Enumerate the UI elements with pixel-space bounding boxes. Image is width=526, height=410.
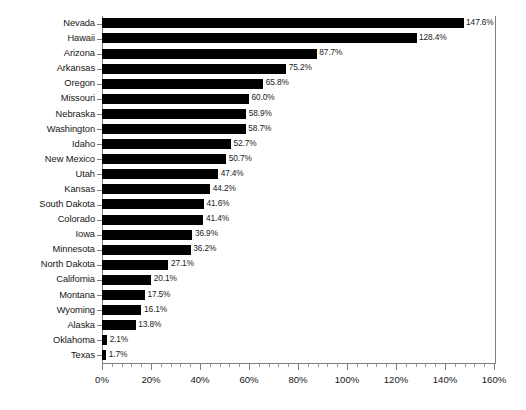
bar-value-label: 41.4% (206, 213, 229, 224)
x-tick-major (249, 364, 250, 370)
category-label: Arkansas (0, 61, 95, 76)
category-label: Wyoming (0, 303, 95, 318)
category-label: Colorado (0, 212, 95, 227)
bar (102, 275, 151, 285)
bar-row: 50.7% (102, 152, 494, 167)
bar-row: 41.4% (102, 212, 494, 227)
bar-value-label: 75.2% (289, 62, 312, 73)
bar-value-label: 47.4% (221, 168, 244, 179)
bar (102, 290, 145, 300)
bar (102, 18, 464, 28)
bar (102, 199, 204, 209)
bar (102, 215, 203, 225)
bar-value-label: 58.7% (248, 123, 271, 134)
bar-row: 1.7% (102, 348, 494, 363)
bar (102, 33, 417, 43)
category-label: Alaska (0, 318, 95, 333)
bar-value-label: 20.1% (154, 273, 177, 284)
bar-value-label: 2.1% (110, 334, 129, 345)
x-tick-minor (259, 364, 260, 367)
bar (102, 260, 168, 270)
category-label: Arizona (0, 46, 95, 61)
category-label: Iowa (0, 227, 95, 242)
x-tick-minor (376, 364, 377, 367)
bar (102, 320, 136, 330)
x-tick-major (151, 364, 152, 370)
category-label: Oklahoma (0, 333, 95, 348)
x-tick-minor (112, 364, 113, 367)
bar-value-label: 41.6% (206, 198, 229, 209)
bar-value-label: 58.9% (249, 108, 272, 119)
category-label: Montana (0, 288, 95, 303)
x-tick-minor (455, 364, 456, 367)
x-axis-tick-labels: 0%20%40%60%80%100%120%140%160% (0, 373, 526, 389)
category-label: New Mexico (0, 152, 95, 167)
bar (102, 335, 107, 345)
x-tick-major (298, 364, 299, 370)
x-tick-minor (406, 364, 407, 367)
bar-value-label: 44.2% (213, 183, 236, 194)
bar (102, 230, 192, 240)
bar (102, 305, 141, 315)
x-tick-minor (327, 364, 328, 367)
bar (102, 139, 231, 149)
x-tick-minor (210, 364, 211, 367)
bar-row: 27.1% (102, 257, 494, 272)
bar (102, 109, 246, 119)
x-tick-minor (288, 364, 289, 367)
x-tick-minor (171, 364, 172, 367)
x-tick-minor (278, 364, 279, 367)
bar-value-label: 36.9% (195, 228, 218, 239)
x-tick-minor (337, 364, 338, 367)
x-tick-minor (484, 364, 485, 367)
x-tick-major (494, 364, 495, 370)
x-tick-minor (220, 364, 221, 367)
x-tick-minor (141, 364, 142, 367)
bar-value-label: 27.1% (171, 258, 194, 269)
x-tick-minor (308, 364, 309, 367)
x-tick-minor (386, 364, 387, 367)
bar-value-label: 36.2% (193, 243, 216, 254)
category-label: Missouri (0, 91, 95, 106)
category-label: Oregon (0, 76, 95, 91)
bar-value-label: 128.4% (419, 32, 447, 43)
bar (102, 169, 218, 179)
bar-row: 36.9% (102, 227, 494, 242)
x-tick-minor (318, 364, 319, 367)
x-tick-label: 80% (288, 373, 307, 386)
x-tick-minor (190, 364, 191, 367)
bar (102, 124, 246, 134)
x-tick-major (347, 364, 348, 370)
bar-series: 147.6%128.4%87.7%75.2%65.8%60.0%58.9%58.… (102, 16, 494, 363)
bar-value-label: 52.7% (234, 138, 257, 149)
x-tick-label: 40% (190, 373, 209, 386)
category-label: Minnesota (0, 242, 95, 257)
category-axis-labels: NevadaHawaiiArizonaArkansasOregonMissour… (0, 16, 95, 363)
x-tick-minor (416, 364, 417, 367)
x-tick-minor (161, 364, 162, 367)
category-label: North Dakota (0, 257, 95, 272)
bar-row: 47.4% (102, 167, 494, 182)
x-tick-minor (425, 364, 426, 367)
bar-row: 44.2% (102, 182, 494, 197)
x-tick-minor (474, 364, 475, 367)
bar-row: 87.7% (102, 46, 494, 61)
x-tick-label: 100% (335, 373, 360, 386)
x-tick-minor (435, 364, 436, 367)
bar-row: 128.4% (102, 31, 494, 46)
bar-value-label: 60.0% (252, 92, 275, 103)
x-tick-minor (229, 364, 230, 367)
x-tick-major (396, 364, 397, 370)
x-tick-label: 60% (239, 373, 258, 386)
bar-row: 58.7% (102, 122, 494, 137)
category-label: Idaho (0, 137, 95, 152)
category-label: Washington (0, 122, 95, 137)
x-tick-label: 0% (95, 373, 109, 386)
category-label: Nebraska (0, 107, 95, 122)
bar-value-label: 1.7% (109, 349, 128, 360)
x-tick-minor (357, 364, 358, 367)
bar-row: 20.1% (102, 272, 494, 287)
bar-row: 13.8% (102, 318, 494, 333)
bar (102, 245, 191, 255)
bar-row: 2.1% (102, 333, 494, 348)
